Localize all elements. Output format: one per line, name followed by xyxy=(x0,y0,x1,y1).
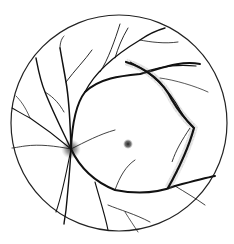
lesion-band xyxy=(126,62,194,188)
blood-vessels xyxy=(12,24,215,232)
fundus-diagram xyxy=(0,0,234,244)
macula-spot xyxy=(123,139,133,149)
